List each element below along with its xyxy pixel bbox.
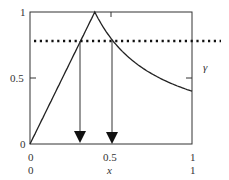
chart: 1 0.5 0 0 0.5 1 0 x 1 γ: [0, 0, 229, 180]
x-axis-label: x: [107, 165, 112, 176]
y-tick-label: 0.5: [10, 73, 24, 84]
gamma-label: γ: [203, 62, 207, 73]
arrow-down-icon: [74, 131, 86, 143]
x-tick-label: 0: [28, 152, 34, 163]
curve-line: [30, 12, 192, 144]
y-tick-label: 1: [20, 7, 26, 18]
x-secondary-label: 0: [28, 165, 34, 176]
x-secondary-label: 1: [190, 165, 196, 176]
x-tick-label: 1: [190, 152, 196, 163]
arrow-down-icon: [106, 132, 118, 144]
x-tick-label: 0.5: [103, 152, 117, 163]
y-tick-label: 0: [20, 139, 26, 150]
plot-frame: [30, 12, 192, 144]
